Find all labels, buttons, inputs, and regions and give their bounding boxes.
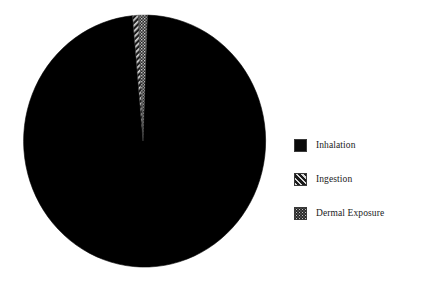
legend-item-label: Ingestion: [316, 174, 352, 184]
pie-chart-figure: Inhalation Ingestion Dermal Exposure: [0, 0, 423, 283]
legend-item-ingestion: Ingestion: [294, 162, 423, 196]
legend: Inhalation Ingestion Dermal Exposure: [294, 128, 423, 230]
solid-black-swatch: [294, 139, 307, 152]
stippled-swatch: [294, 207, 307, 220]
pie-chart-svg: [0, 0, 283, 283]
legend-item-inhalation: Inhalation: [294, 128, 423, 162]
legend-item-label: Dermal Exposure: [316, 208, 384, 218]
legend-item-dermal-exposure: Dermal Exposure: [294, 196, 423, 230]
legend-item-label: Inhalation: [316, 140, 356, 150]
pie-chart-plot-area: [0, 0, 283, 283]
hatched-swatch: [294, 173, 307, 186]
